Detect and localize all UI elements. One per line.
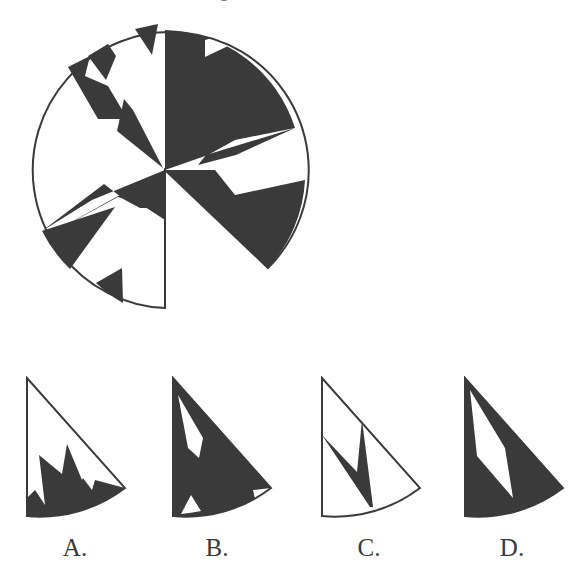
option-a-figure[interactable]	[25, 376, 135, 526]
black-region	[165, 170, 305, 268]
option-a-label[interactable]: A.	[45, 534, 105, 562]
option-c-figure[interactable]	[320, 376, 430, 526]
black-region	[117, 99, 163, 168]
option-d-label[interactable]: D.	[482, 534, 542, 562]
option-d-figure[interactable]	[463, 376, 573, 526]
option-b-figure[interactable]	[171, 376, 281, 526]
option-b-label[interactable]: B.	[187, 534, 247, 562]
black-region	[135, 24, 158, 55]
main-puzzle-figure	[0, 0, 579, 360]
option-c-label[interactable]: C.	[339, 534, 399, 562]
